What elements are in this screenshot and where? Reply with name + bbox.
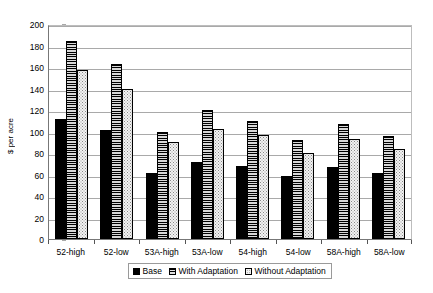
y-tick-label: 60: [18, 172, 44, 180]
x-tick-mark: [321, 240, 322, 244]
x-tick-mark: [139, 240, 140, 244]
bar: [191, 162, 202, 239]
y-tick-label: 100: [18, 129, 44, 137]
y-tick-label: 0: [18, 236, 44, 244]
bar: [247, 121, 258, 239]
bar: [213, 129, 224, 239]
bar: [66, 41, 77, 239]
bar: [122, 89, 133, 240]
legend-item: With Adaptation: [169, 266, 238, 276]
bar: [372, 173, 383, 239]
bar: [292, 140, 303, 239]
legend-label: With Adaptation: [178, 266, 238, 276]
legend-swatch-icon: [169, 268, 176, 275]
x-tick-label: 58A-high: [321, 246, 367, 260]
bar-group: [275, 26, 320, 239]
bar: [55, 119, 66, 239]
bar: [349, 139, 360, 239]
chart-legend: BaseWith AdaptationWithout Adaptation: [128, 263, 332, 279]
x-tick-label: 53A-high: [139, 246, 185, 260]
y-tick-label: 180: [18, 43, 44, 51]
bar: [338, 124, 349, 239]
bar: [281, 176, 292, 239]
y-tick-label: 120: [18, 107, 44, 115]
bar: [168, 142, 179, 239]
y-axis-tick-labels: 020406080100120140160180200: [18, 25, 44, 240]
bar-groups: [49, 26, 411, 239]
legend-label: Base: [143, 266, 162, 276]
x-axis-tick-marks: [48, 240, 412, 245]
bar: [77, 70, 88, 239]
legend-item: Base: [133, 266, 162, 276]
bar: [146, 173, 157, 239]
bar-group: [49, 26, 94, 239]
legend-item: Without Adaptation: [245, 266, 326, 276]
x-tick-mark: [276, 240, 277, 244]
bar: [327, 167, 338, 239]
x-tick-label: 53A-low: [185, 246, 231, 260]
x-axis-labels: 52-high52-low53A-high53A-low54-high54-lo…: [48, 246, 412, 260]
bar-group: [94, 26, 139, 239]
x-tick-mark: [48, 240, 49, 244]
x-tick-mark: [367, 240, 368, 244]
x-tick-label: 52-high: [48, 246, 94, 260]
bar-group: [185, 26, 230, 239]
y-tick-label: 40: [18, 193, 44, 201]
x-tick-mark: [230, 240, 231, 244]
y-tick-label: 80: [18, 150, 44, 158]
legend-swatch-icon: [245, 268, 252, 275]
bar-group: [230, 26, 275, 239]
x-tick-mark: [185, 240, 186, 244]
bar: [303, 153, 314, 239]
bar-group: [321, 26, 366, 239]
bar: [100, 130, 111, 239]
y-tick-label: 20: [18, 215, 44, 223]
bar: [157, 132, 168, 240]
x-tick-mark: [94, 240, 95, 244]
y-tick-label: 200: [18, 21, 44, 29]
bar-group: [366, 26, 411, 239]
bar: [202, 110, 213, 239]
x-tick-mark: [411, 240, 412, 244]
bar: [258, 135, 269, 239]
legend-swatch-icon: [133, 268, 140, 275]
x-tick-label: 58A-low: [367, 246, 413, 260]
y-tick-label: 140: [18, 86, 44, 94]
x-tick-label: 54-high: [230, 246, 276, 260]
bar: [383, 136, 394, 239]
legend-label: Without Adaptation: [254, 266, 325, 276]
bar-group: [140, 26, 185, 239]
x-tick-label: 54-low: [276, 246, 322, 260]
bar-chart: $ per acre 020406080100120140160180200 5…: [0, 0, 433, 293]
x-tick-label: 52-low: [94, 246, 140, 260]
bar: [111, 64, 122, 239]
bar: [236, 166, 247, 239]
plot-area: [48, 25, 412, 240]
bar: [394, 149, 405, 239]
y-tick-label: 160: [18, 64, 44, 72]
